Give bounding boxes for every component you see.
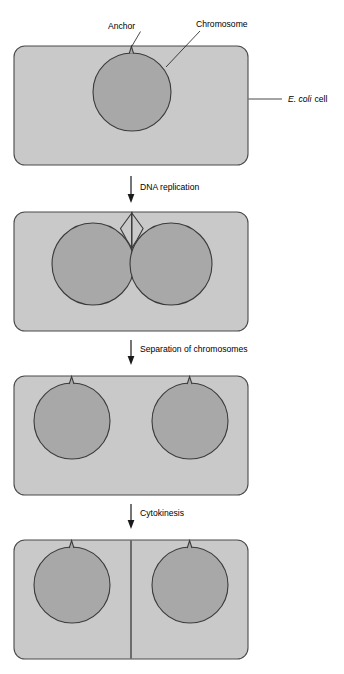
ecoli-cell-label: E. colicell bbox=[288, 94, 327, 104]
chromosome-3a bbox=[34, 383, 110, 459]
step-dna-replication: DNA replication bbox=[128, 176, 200, 203]
binary-fission-diagram: Anchor Chromosome E. colicell DNA replic… bbox=[0, 0, 344, 674]
chromosome-4a bbox=[34, 547, 110, 623]
panel-3 bbox=[14, 376, 248, 495]
panel-1: Anchor Chromosome E. colicell bbox=[14, 19, 327, 165]
down-arrow-icon-head-1 bbox=[128, 194, 135, 203]
ecoli-cell-label-plain: cell bbox=[314, 94, 327, 104]
anchor-label: Anchor bbox=[108, 21, 135, 31]
anchor-leader-line bbox=[132, 32, 141, 47]
step-label-separation-of-chromosomes: Separation of chromosomes bbox=[140, 344, 247, 354]
down-arrow-icon-head-3 bbox=[128, 520, 135, 529]
chromosome-2b bbox=[130, 223, 212, 305]
step-label-dna-replication: DNA replication bbox=[140, 182, 199, 192]
chromosome-3b bbox=[152, 383, 228, 459]
panel-2 bbox=[14, 212, 248, 331]
ecoli-cell-label-italic: E. coli bbox=[288, 94, 312, 104]
chromosome-2a bbox=[52, 223, 134, 305]
chromosome-label: Chromosome bbox=[196, 19, 248, 29]
down-arrow-icon-head-2 bbox=[128, 356, 135, 365]
panel-4 bbox=[14, 540, 248, 659]
chromosome-4b bbox=[152, 547, 228, 623]
step-label-cytokinesis: Cytokinesis bbox=[140, 508, 184, 518]
step-separation-of-chromosomes: Separation of chromosomes bbox=[128, 340, 248, 365]
chromosome-1 bbox=[93, 53, 171, 131]
step-cytokinesis: Cytokinesis bbox=[128, 504, 184, 529]
